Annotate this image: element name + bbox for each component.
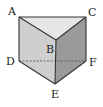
label-d: D (6, 55, 15, 68)
label-e: E (51, 88, 59, 101)
triangular-prism-diagram: A C B D F E (0, 0, 103, 107)
label-c: C (88, 6, 96, 19)
label-f: F (89, 56, 97, 69)
label-a: A (7, 5, 17, 18)
label-b: B (46, 43, 54, 56)
